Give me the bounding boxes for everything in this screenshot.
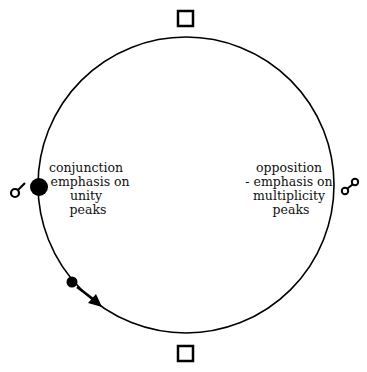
opposition-label: opposition - emphasis on multiplicity pe… bbox=[245, 160, 336, 217]
opposition-symbol-icon bbox=[342, 179, 358, 194]
direction-arrow-icon bbox=[77, 287, 102, 307]
conjunction-symbol-icon bbox=[11, 183, 25, 197]
square-icon-top bbox=[178, 11, 193, 26]
square-icon-bottom bbox=[178, 346, 193, 361]
moving-dot bbox=[67, 277, 78, 288]
aspect-cycle-diagram: conjunction - emphasis on unity peaks op… bbox=[0, 0, 367, 372]
conjunction-label: conjunction - emphasis on unity peaks bbox=[42, 160, 133, 217]
